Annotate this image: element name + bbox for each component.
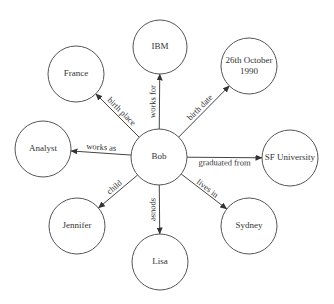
edge-sydney: lives in [181, 174, 227, 209]
node-label: Sydney [236, 220, 264, 230]
edge-label: birth place [105, 95, 138, 128]
node-label: SF University [265, 152, 316, 162]
node-sfuniversity: SF University [262, 130, 318, 186]
node-label: 26th October [225, 55, 272, 65]
edge-jennifer: child [98, 175, 137, 208]
node-lisa: Lisa [132, 234, 188, 290]
edge-label: child [104, 177, 124, 196]
node-sydney: Sydney [221, 198, 277, 254]
knowledge-graph: works forbirth placebirth dateworks asgr… [0, 0, 334, 304]
edge-birthdate: birth date [179, 86, 230, 137]
edge-sfuniversity: graduated from [187, 157, 262, 167]
edge-label: spouse [149, 198, 159, 221]
node-jennifer: Jennifer [49, 198, 105, 254]
nodes: BobIBMFrance26th October1990AnalystSF Un… [15, 20, 318, 290]
edge-analyst: works as [71, 141, 131, 155]
node-ibm: IBM [133, 20, 187, 74]
edge-arrow-line [159, 74, 160, 129]
node-birthdate: 26th October1990 [221, 38, 277, 94]
edge-label: works for [147, 85, 157, 118]
node-analyst: Analyst [15, 121, 71, 177]
node-france: France [48, 46, 104, 102]
edge-arrow-line [179, 86, 230, 137]
node-label: Jennifer [63, 220, 92, 230]
node-label-line2: 1990 [240, 66, 259, 76]
edge-label: works as [86, 141, 117, 153]
edge-label: birth date [185, 92, 215, 122]
node-label: Analyst [29, 143, 57, 153]
edge-france: birth place [96, 94, 139, 137]
edge-lisa: spouse [149, 185, 159, 234]
node-label: IBM [151, 41, 168, 51]
node-label: Lisa [152, 256, 168, 266]
node-bob: Bob [131, 129, 187, 185]
edge-label: lives in [195, 177, 221, 200]
edge-ibm: works for [147, 74, 159, 129]
edge-label: graduated from [198, 157, 251, 167]
node-label: Bob [151, 151, 167, 161]
node-label: France [64, 68, 89, 78]
